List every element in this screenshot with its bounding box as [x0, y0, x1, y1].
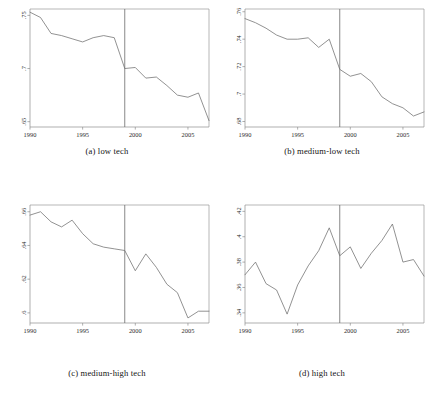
chart-low-tech: .75.7.651990199520002005	[0, 0, 214, 150]
svg-text:.6: .6	[20, 310, 27, 315]
svg-text:.7: .7	[235, 91, 242, 97]
svg-text:.66: .66	[20, 208, 27, 216]
panel-caption-medium-low-tech: (b) medium-low tech	[215, 146, 429, 156]
chart-high-tech: .42.4.38.36.341990199520002005	[215, 196, 429, 346]
plot-area-medium-low-tech: .76.74.72.7.681990199520002005	[215, 0, 429, 150]
panel-caption-high-tech: (d) high tech	[215, 368, 429, 378]
svg-text:.62: .62	[20, 275, 27, 283]
svg-text:1990: 1990	[239, 131, 252, 138]
svg-text:.38: .38	[235, 258, 242, 266]
svg-text:.75: .75	[20, 11, 27, 19]
plot-area-low-tech: .75.7.651990199520002005	[0, 0, 214, 150]
svg-text:2005: 2005	[182, 131, 195, 138]
plot-area-high-tech: .42.4.38.36.341990199520002005	[215, 196, 429, 346]
panel-high-tech: .42.4.38.36.341990199520002005 (d) high …	[215, 196, 429, 397]
svg-text:1990: 1990	[24, 327, 37, 334]
svg-text:.4: .4	[235, 234, 242, 240]
svg-text:.76: .76	[235, 8, 242, 16]
panel-low-tech: .75.7.651990199520002005 (a) low tech	[0, 0, 214, 201]
svg-text:2005: 2005	[397, 327, 410, 334]
chart-medium-high-tech: .66.64.62.61990199520002005	[0, 196, 214, 346]
svg-text:1995: 1995	[76, 327, 89, 334]
svg-text:2000: 2000	[344, 131, 357, 138]
panel-medium-high-tech: .66.64.62.61990199520002005 (c) medium-h…	[0, 196, 214, 397]
svg-text:.42: .42	[235, 207, 242, 215]
svg-text:.36: .36	[235, 283, 242, 291]
svg-text:.34: .34	[235, 308, 242, 317]
svg-text:2005: 2005	[397, 131, 410, 138]
chart-medium-low-tech: .76.74.72.7.681990199520002005	[215, 0, 429, 150]
figure-container: .75.7.651990199520002005 (a) low tech .7…	[0, 0, 429, 402]
svg-text:.68: .68	[235, 118, 242, 126]
panel-caption-medium-high-tech: (c) medium-high tech	[0, 368, 214, 378]
svg-text:.72: .72	[235, 63, 242, 71]
svg-text:1990: 1990	[239, 327, 252, 334]
plot-area-medium-high-tech: .66.64.62.61990199520002005	[0, 196, 214, 346]
svg-text:.65: .65	[20, 118, 27, 126]
panel-medium-low-tech: .76.74.72.7.681990199520002005 (b) mediu…	[215, 0, 429, 201]
svg-text:2005: 2005	[182, 327, 195, 334]
svg-text:1995: 1995	[76, 131, 89, 138]
svg-text:2000: 2000	[129, 131, 142, 138]
svg-text:.64: .64	[20, 241, 27, 250]
panel-caption-low-tech: (a) low tech	[0, 146, 214, 156]
svg-text:2000: 2000	[344, 327, 357, 334]
svg-text:1995: 1995	[291, 131, 304, 138]
svg-text:1995: 1995	[291, 327, 304, 334]
svg-text:2000: 2000	[129, 327, 142, 334]
svg-text:.74: .74	[235, 34, 242, 43]
svg-text:1990: 1990	[24, 131, 37, 138]
svg-text:.7: .7	[20, 65, 27, 71]
